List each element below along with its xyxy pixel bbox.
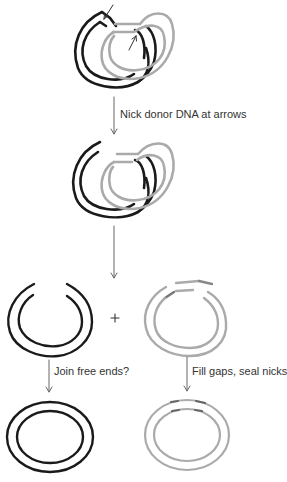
- step-label-join: Join free ends?: [54, 365, 129, 377]
- stage3-host-dna-open: [8, 284, 92, 356]
- stage1-interlocked-plasmids: [75, 5, 173, 87]
- process-arrow-3-left: [46, 360, 52, 392]
- process-arrow-2: [111, 226, 117, 278]
- stage4-donor-dna-repaired: [145, 400, 229, 470]
- process-arrow-3-right: [184, 357, 190, 391]
- step-label-nick: Nick donor DNA at arrows: [120, 108, 247, 120]
- step-label-fill: Fill gaps, seal nicks: [192, 365, 287, 377]
- stage2-nicked-plasmids: [73, 142, 173, 217]
- process-arrow-1: [111, 97, 117, 134]
- diagram-canvas: [0, 0, 287, 482]
- stage3-donor-dna-gapped: [145, 281, 226, 356]
- plus-sign: [111, 314, 119, 322]
- stage4-host-dna-closed: [7, 402, 93, 472]
